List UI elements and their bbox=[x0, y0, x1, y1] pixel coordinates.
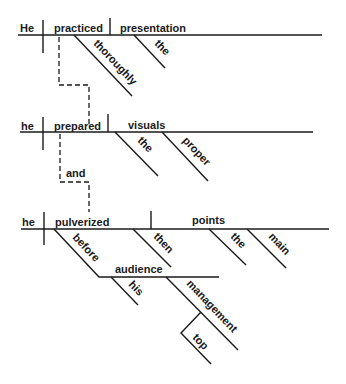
modifier-management: management bbox=[185, 277, 241, 335]
subject-2: he bbox=[21, 120, 34, 132]
clause-1: He practiced presentation thoroughly the bbox=[18, 18, 322, 96]
modifier-before: before bbox=[71, 231, 103, 264]
modifier-the-2: the bbox=[136, 134, 156, 154]
prep-object-audience: audience bbox=[115, 263, 163, 275]
clause-3: he pulverized points before audience his… bbox=[21, 211, 329, 364]
verb-2: prepared bbox=[54, 120, 101, 132]
object-1: presentation bbox=[120, 22, 186, 34]
modifier-his: his bbox=[127, 278, 147, 298]
modifier-line-the-2 bbox=[115, 132, 158, 176]
subject-3: he bbox=[22, 216, 35, 228]
connector-1 bbox=[59, 37, 89, 127]
sentence-diagram: He practiced presentation thoroughly the… bbox=[0, 0, 346, 384]
object-3: points bbox=[192, 214, 225, 226]
modifier-the-3: the bbox=[229, 230, 249, 250]
modifier-proper: proper bbox=[181, 134, 214, 168]
verb-3: pulverized bbox=[55, 216, 109, 228]
conjunction: and bbox=[66, 167, 86, 179]
modifier-the-1: the bbox=[153, 37, 173, 57]
verb-1: practiced bbox=[54, 22, 103, 34]
modifier-top: top bbox=[191, 331, 212, 352]
clause-2: he prepared visuals the proper bbox=[20, 114, 313, 181]
object-2: visuals bbox=[128, 119, 165, 131]
subject-1: He bbox=[20, 22, 34, 34]
